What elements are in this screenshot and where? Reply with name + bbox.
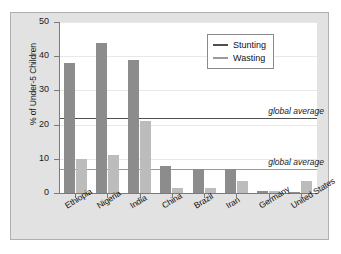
bar-germany-stunting bbox=[257, 191, 268, 193]
y-tick-label: 30 bbox=[23, 85, 49, 94]
y-tick-label: 40 bbox=[23, 51, 49, 60]
bar-nigeria-stunting bbox=[96, 43, 107, 193]
reference-label-wasting: global average bbox=[268, 157, 324, 167]
legend-label-wasting: Wasting bbox=[233, 53, 265, 63]
y-tick-mark bbox=[54, 125, 59, 126]
y-tick-mark bbox=[54, 159, 59, 160]
x-label-india: India bbox=[128, 192, 149, 210]
y-tick-label: 50 bbox=[23, 17, 49, 26]
bar-india-wasting bbox=[140, 121, 151, 193]
bar-iran-wasting bbox=[237, 181, 248, 193]
y-tick-label: 10 bbox=[23, 154, 49, 163]
y-tick-mark bbox=[54, 193, 59, 194]
reference-label-stunting: global average bbox=[268, 106, 324, 116]
y-tick-mark bbox=[54, 90, 59, 91]
legend-item-wasting: Wasting bbox=[213, 51, 266, 64]
legend-line-stunting-icon bbox=[213, 44, 228, 46]
y-tick-label: 0 bbox=[23, 188, 49, 197]
bar-india-stunting bbox=[128, 60, 139, 193]
chart-legend: Stunting Wasting bbox=[207, 34, 274, 69]
legend-item-stunting: Stunting bbox=[213, 38, 266, 51]
y-tick-mark bbox=[54, 22, 59, 23]
bar-ethiopia-stunting bbox=[64, 63, 75, 193]
bar-china-stunting bbox=[160, 166, 171, 193]
bar-iran-stunting bbox=[225, 169, 236, 193]
legend-line-wasting-icon bbox=[213, 57, 228, 59]
y-tick-mark bbox=[54, 56, 59, 57]
x-label-iran: Iran bbox=[224, 194, 241, 210]
bar-brazil-stunting bbox=[193, 169, 204, 193]
chart-figure: % of Under-5 Children 01020304050 Ethiop… bbox=[10, 12, 329, 240]
y-tick-label: 20 bbox=[23, 120, 49, 129]
y-axis-line bbox=[59, 22, 60, 193]
legend-label-stunting: Stunting bbox=[233, 40, 266, 50]
gridline bbox=[59, 22, 317, 23]
